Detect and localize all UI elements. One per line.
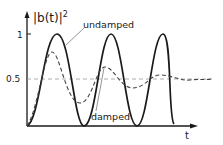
undamped-leader-line <box>66 28 84 45</box>
axes <box>27 17 192 126</box>
x-axis-label: t <box>185 130 189 141</box>
tick-label-0-5: 0.5 <box>6 74 20 84</box>
y-axis-label: |b(t)|2 <box>33 10 68 25</box>
rabi-oscillation-chart: |b(t)|2 1 0.5 undamped damped t <box>0 0 223 145</box>
damped-leader-line <box>96 68 104 111</box>
undamped-label: undamped <box>83 19 134 30</box>
damped-label: damped <box>91 111 130 122</box>
y-axis-label-exponent: 2 <box>63 10 68 19</box>
tick-label-1: 1 <box>17 30 23 40</box>
x-axis-arrow-icon <box>190 124 198 129</box>
y-axis-arrow-icon <box>25 11 30 18</box>
